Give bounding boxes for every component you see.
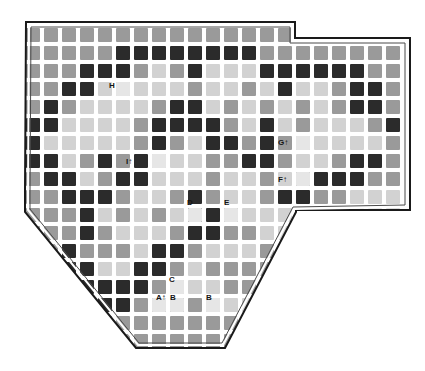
grid-cell bbox=[170, 64, 184, 78]
grid-cell bbox=[278, 64, 292, 78]
grid-cell bbox=[242, 64, 256, 78]
grid-cell bbox=[170, 154, 184, 168]
up-arrow-icon: ↑ bbox=[128, 157, 132, 166]
grid-cell bbox=[332, 46, 346, 60]
grid-cell bbox=[44, 100, 58, 114]
grid-cell bbox=[206, 190, 220, 204]
grid-cell bbox=[242, 82, 256, 96]
grid-cell bbox=[332, 82, 346, 96]
grid-cell bbox=[350, 64, 364, 78]
grid-cell bbox=[206, 28, 220, 42]
grid-cell bbox=[62, 118, 76, 132]
grid-cell bbox=[44, 46, 58, 60]
grid-cell bbox=[44, 154, 58, 168]
grid-cell bbox=[350, 154, 364, 168]
grid-cell bbox=[116, 280, 130, 294]
grid-cell bbox=[134, 262, 148, 276]
grid-cell bbox=[206, 172, 220, 186]
grid-cell bbox=[224, 118, 238, 132]
grid-cell bbox=[332, 136, 346, 150]
grid-cell bbox=[170, 28, 184, 42]
grid-cell bbox=[188, 46, 202, 60]
grid-cell bbox=[98, 262, 112, 276]
grid-cell bbox=[62, 82, 76, 96]
grid-cell bbox=[62, 136, 76, 150]
cell-label-i: I↑ bbox=[126, 158, 132, 166]
grid-cell bbox=[62, 100, 76, 114]
grid-cell bbox=[260, 136, 274, 150]
grid-cell bbox=[314, 136, 328, 150]
grid-cell bbox=[188, 244, 202, 258]
cell-label-e: E bbox=[224, 199, 229, 207]
grid-cell bbox=[386, 118, 400, 132]
grid-cell bbox=[62, 46, 76, 60]
grid-cell bbox=[188, 82, 202, 96]
grid-cell bbox=[314, 46, 328, 60]
grid-cell bbox=[260, 118, 274, 132]
grid-cell bbox=[242, 208, 256, 222]
label-cell-highlight bbox=[116, 82, 130, 96]
grid-cell bbox=[134, 226, 148, 240]
grid-cell bbox=[332, 118, 346, 132]
grid-cell bbox=[224, 262, 238, 276]
grid-cell bbox=[98, 190, 112, 204]
grid-cell bbox=[152, 316, 166, 330]
grid-cell bbox=[152, 64, 166, 78]
grid-cell bbox=[242, 154, 256, 168]
grid-cell bbox=[26, 46, 40, 60]
grid-cell bbox=[188, 262, 202, 276]
grid-cell bbox=[224, 28, 238, 42]
grid-cell bbox=[188, 154, 202, 168]
grid-cell bbox=[62, 190, 76, 204]
grid-cell bbox=[116, 298, 130, 312]
grid-cell bbox=[260, 64, 274, 78]
grid-cell bbox=[98, 136, 112, 150]
grid-cell bbox=[188, 226, 202, 240]
grid-cell bbox=[224, 100, 238, 114]
grid-cell bbox=[332, 100, 346, 114]
grid-cell bbox=[170, 172, 184, 186]
grid-cell bbox=[62, 64, 76, 78]
label-letter: E bbox=[224, 198, 229, 207]
grid-cell bbox=[98, 172, 112, 186]
grid-cell bbox=[134, 100, 148, 114]
grid-cell bbox=[152, 280, 166, 294]
grid-cell bbox=[134, 280, 148, 294]
grid-cell bbox=[170, 136, 184, 150]
grid-cell bbox=[116, 226, 130, 240]
grid-cell bbox=[152, 46, 166, 60]
grid-cell bbox=[206, 262, 220, 276]
grid-cell bbox=[44, 28, 58, 42]
grid-cell bbox=[260, 28, 274, 42]
grid-cell bbox=[116, 118, 130, 132]
grid-cell bbox=[134, 172, 148, 186]
grid-cell bbox=[386, 136, 400, 150]
grid-cell bbox=[80, 244, 94, 258]
grid-cell bbox=[62, 208, 76, 222]
grid-cell bbox=[44, 118, 58, 132]
grid-cell bbox=[332, 190, 346, 204]
grid-cell bbox=[26, 172, 40, 186]
grid-cell bbox=[386, 82, 400, 96]
grid-cell bbox=[44, 64, 58, 78]
grid-cell bbox=[98, 64, 112, 78]
grid-cell bbox=[26, 136, 40, 150]
grid-cell bbox=[368, 118, 382, 132]
grid-cell bbox=[368, 172, 382, 186]
grid-cell bbox=[224, 244, 238, 258]
grid-cell bbox=[260, 82, 274, 96]
grid-cell bbox=[152, 334, 166, 348]
grid-cell bbox=[134, 154, 148, 168]
grid-cell bbox=[206, 46, 220, 60]
grid-cell bbox=[116, 100, 130, 114]
grid-cell bbox=[386, 172, 400, 186]
grid-cell bbox=[242, 136, 256, 150]
grid-cell bbox=[152, 190, 166, 204]
grid-cell bbox=[260, 190, 274, 204]
label-cell-highlight bbox=[296, 172, 310, 186]
grid-cell bbox=[116, 172, 130, 186]
grid-cell bbox=[242, 190, 256, 204]
grid-cell bbox=[224, 46, 238, 60]
grid-cell bbox=[26, 64, 40, 78]
grid-cell bbox=[206, 100, 220, 114]
